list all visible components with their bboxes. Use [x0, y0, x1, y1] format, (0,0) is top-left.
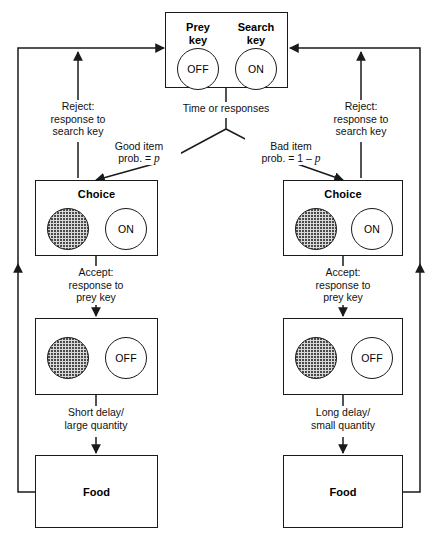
label-reject-left: Reject: response to search key [31, 100, 125, 138]
prey-key-indicator[interactable]: OFF [177, 48, 219, 90]
left-food-box[interactable]: Food [35, 455, 158, 528]
left-handling-prey-indicator[interactable] [47, 337, 89, 379]
left-handling-search-indicator-wrap: OFF [105, 337, 147, 379]
prey-key-group: Preykey OFF [170, 21, 226, 46]
right-food-label: Food [284, 486, 402, 498]
right-food-box[interactable]: Food [283, 455, 403, 528]
right-choice-title: Choice [284, 188, 402, 200]
left-choice-prey-indicator[interactable] [47, 208, 89, 250]
right-handling-prey-indicator-wrap [295, 337, 337, 379]
label-accept-right: Accept: response to prey key [296, 266, 390, 304]
left-food-label: Food [36, 486, 157, 498]
right-handling-prey-indicator[interactable] [295, 337, 337, 379]
prey-key-indicator-wrap: OFF [177, 48, 219, 90]
left-choice-title: Choice [36, 188, 157, 200]
prey-key-label: Preykey [170, 21, 226, 46]
left-choice-search-indicator-wrap: ON [105, 208, 147, 250]
left-choice-search-indicator[interactable]: ON [105, 208, 147, 250]
left-handling-search-indicator[interactable]: OFF [105, 337, 147, 379]
right-choice-prey-indicator[interactable] [295, 208, 337, 250]
diagram-canvas: Preykey OFF Searchkey ON Time or respons… [0, 0, 438, 540]
label-outcome-right: Long delay/ small quantity [291, 406, 395, 431]
label-accept-left: Accept: response to prey key [49, 266, 143, 304]
label-reject-right: Reject: response to search key [314, 100, 408, 138]
search-state-box[interactable]: Preykey OFF Searchkey ON [165, 12, 288, 88]
label-outcome-left: Short delay/ large quantity [44, 406, 148, 431]
left-choice-box[interactable]: Choice ON [35, 180, 158, 256]
search-key-indicator[interactable]: ON [235, 48, 277, 90]
left-choice-prey-indicator-wrap [47, 208, 89, 250]
right-handling-box[interactable]: OFF [283, 318, 403, 395]
right-choice-search-indicator[interactable]: ON [351, 208, 393, 250]
right-choice-box[interactable]: Choice ON [283, 180, 403, 256]
left-handling-prey-indicator-wrap [47, 337, 89, 379]
right-choice-prey-indicator-wrap [295, 208, 337, 250]
right-handling-search-indicator-wrap: OFF [351, 337, 393, 379]
wire-right-return-lower [403, 286, 420, 492]
right-handling-search-indicator[interactable]: OFF [351, 337, 393, 379]
wire-left-return-lower [18, 286, 35, 492]
label-time-or-responses: Time or responses [166, 102, 286, 115]
left-handling-box[interactable]: OFF [35, 318, 158, 395]
right-choice-search-indicator-wrap: ON [351, 208, 393, 250]
prob-variable-p-left: p [154, 152, 160, 164]
search-key-indicator-wrap: ON [235, 48, 277, 90]
prob-variable-p-right: p [315, 152, 321, 164]
search-key-group: Searchkey ON [228, 21, 284, 46]
search-key-label: Searchkey [228, 21, 284, 46]
